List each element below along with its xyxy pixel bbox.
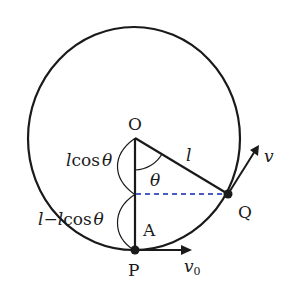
brace-upper (118, 139, 135, 194)
arrowhead-p (181, 245, 192, 255)
velocity-arrow-q (228, 151, 255, 194)
label-l-minus-lcos-theta: l−lcosθ (38, 209, 104, 229)
label-string-length: l (186, 145, 191, 165)
label-O: O (128, 114, 142, 134)
brace-lower (118, 195, 135, 250)
label-theta: θ (150, 170, 160, 190)
pendulum-diagram: O P Q A l θ lcosθ l−lcosθ v v0 (0, 0, 290, 297)
label-lcos-theta: lcosθ (66, 150, 112, 170)
label-P: P (128, 260, 139, 280)
label-Q: Q (238, 202, 252, 222)
arrowhead-q (250, 145, 259, 156)
point-P-dot (131, 246, 140, 255)
label-velocity-p: v0 (184, 256, 201, 278)
point-Q-dot (224, 190, 233, 199)
angle-arc-theta (135, 154, 162, 170)
label-velocity-q: v (264, 146, 274, 166)
label-A: A (142, 220, 156, 240)
